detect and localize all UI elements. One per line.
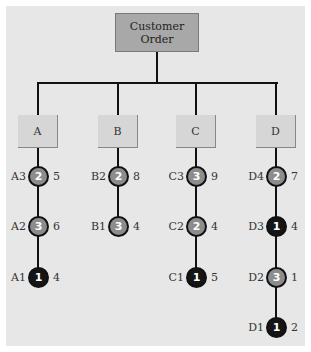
- node-circle: 3: [28, 216, 49, 237]
- root-label-line2: Order: [140, 33, 173, 46]
- node-name: B2: [86, 170, 106, 183]
- node-qty: 8: [133, 170, 140, 183]
- node-circle: 1: [186, 267, 207, 288]
- node-circle: 3: [108, 216, 129, 237]
- node-name: A2: [6, 220, 26, 233]
- node-circle: 1: [266, 216, 287, 237]
- node-circle: 2: [108, 166, 129, 187]
- node-qty: 4: [291, 220, 298, 233]
- node-circle: 1: [266, 317, 287, 338]
- node-circle: 2: [28, 166, 49, 187]
- component-box-d: D: [256, 115, 296, 148]
- branch-line-a: [37, 82, 39, 115]
- node-name: C2: [164, 220, 184, 233]
- node-name: A3: [6, 170, 26, 183]
- node-qty: 9: [211, 170, 218, 183]
- branch-horizontal-line: [37, 82, 278, 84]
- branch-line-b: [117, 82, 119, 115]
- node-circle: 1: [28, 267, 49, 288]
- node-name: A1: [6, 271, 26, 284]
- node-qty: 4: [133, 220, 140, 233]
- node-circle: 2: [266, 166, 287, 187]
- component-box-c: C: [176, 115, 216, 148]
- node-name: D1: [244, 321, 264, 334]
- node-qty: 2: [291, 321, 298, 334]
- node-name: C1: [164, 271, 184, 284]
- node-circle: 2: [186, 216, 207, 237]
- node-name: D2: [244, 271, 264, 284]
- chain-line-b: [117, 148, 119, 226]
- root-label-line1: Customer: [130, 20, 184, 33]
- node-qty: 4: [211, 220, 218, 233]
- node-name: B1: [86, 220, 106, 233]
- branch-line-c: [195, 82, 197, 115]
- node-name: D4: [244, 170, 264, 183]
- node-name: C3: [164, 170, 184, 183]
- node-name: D3: [244, 220, 264, 233]
- node-qty: 4: [53, 271, 60, 284]
- node-qty: 5: [211, 271, 218, 284]
- node-circle: 3: [186, 166, 207, 187]
- node-circle: 3: [266, 267, 287, 288]
- node-qty: 5: [53, 170, 60, 183]
- component-box-a: A: [18, 115, 58, 148]
- component-box-b: B: [98, 115, 138, 148]
- node-qty: 7: [291, 170, 298, 183]
- node-qty: 6: [53, 220, 60, 233]
- node-qty: 1: [291, 271, 298, 284]
- customer-order-box: Customer Order: [115, 13, 199, 52]
- branch-line-d: [275, 82, 277, 115]
- root-connector-line: [156, 52, 158, 84]
